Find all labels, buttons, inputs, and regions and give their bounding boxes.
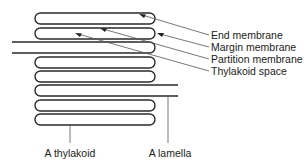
- thylakoid-disc-4: [35, 71, 155, 82]
- label-a-lamella: A lamella: [149, 147, 192, 159]
- stroma-lamella-lower: [35, 85, 178, 96]
- thylakoid-stack: [35, 13, 155, 125]
- label-end-membrane: End membrane: [211, 29, 283, 41]
- label-a-thylakoid: A thylakoid: [45, 147, 96, 159]
- label-partition-membrane: Partition membrane: [211, 53, 303, 65]
- thylakoid-disc-6: [35, 114, 155, 125]
- thylakoid-disc-3: [35, 57, 155, 68]
- stroma-lamella-upper: [12, 42, 155, 53]
- label-margin-membrane: Margin membrane: [211, 41, 296, 53]
- leader-margin-membrane: [157, 33, 209, 47]
- thylakoid-disc-2: [35, 28, 155, 39]
- granum-diagram: [0, 0, 307, 168]
- thylakoid-disc-5: [35, 100, 155, 111]
- thylakoid-disc-1: [35, 13, 155, 24]
- label-thylakoid-space: Thylakoid space: [211, 65, 287, 77]
